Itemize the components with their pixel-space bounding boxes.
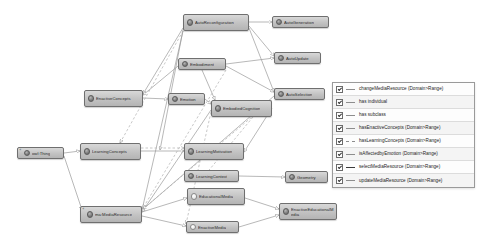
graph-node-embodiedcognition[interactable]: EmbodiedCognition — [211, 100, 272, 117]
graph-node-geometry[interactable]: Geometry — [285, 171, 328, 183]
graph-node-enactiveeducationalmedia[interactable]: EnactiveEducationalMedia — [279, 203, 337, 220]
legend-row[interactable]: isAffectedbyEmotion (Domain>Range) — [333, 148, 474, 161]
hollow-circle-icon — [190, 224, 196, 230]
filled-circle-icon — [278, 55, 284, 61]
filled-circle-icon — [188, 148, 194, 154]
legend-checkbox[interactable] — [336, 164, 343, 171]
node-label: AutoUpdate — [286, 56, 309, 61]
graph-node-autoselection[interactable]: AutoSelection — [274, 88, 325, 100]
graph-node-autoreconfiguration[interactable]: AutoReconfiguration — [183, 14, 249, 31]
graph-node-autogeneration[interactable]: AutoGeneration — [272, 16, 329, 28]
legend-line-swatch — [346, 167, 355, 168]
legend-checkbox[interactable] — [336, 125, 343, 132]
legend-checkbox[interactable] — [336, 177, 343, 184]
filled-circle-icon — [283, 208, 289, 214]
filled-circle-icon — [276, 19, 282, 25]
legend-row[interactable]: hasEnactiveConcepts (Domain>Range) — [333, 122, 474, 135]
graph-node-embodiment[interactable]: Embodiment — [178, 58, 226, 70]
legend-line-swatch — [346, 115, 355, 116]
node-label: LearningContext — [196, 174, 227, 179]
legend-line-swatch — [346, 180, 355, 181]
graph-node-owlthing[interactable]: «owl:Thing — [17, 147, 64, 159]
hollow-circle-icon — [191, 193, 197, 199]
legend-line-swatch — [346, 154, 355, 155]
node-label: EmbodiedCognition — [223, 106, 260, 111]
node-marker-icon: « — [20, 149, 22, 152]
legend-label: hasLearningConcepts (Domain>Range) — [359, 138, 441, 144]
node-label: Embodiment — [190, 62, 214, 67]
filled-circle-icon — [172, 96, 178, 102]
legend-line-swatch — [346, 128, 355, 129]
filled-circle-icon — [187, 19, 193, 25]
graph-node-emotion[interactable]: Emotion — [168, 93, 205, 105]
filled-circle-icon — [289, 174, 295, 180]
graph-node-autoupdate[interactable]: AutoUpdate — [274, 52, 321, 64]
graph-node-learningcontext[interactable]: LearningContext — [184, 170, 239, 182]
filled-circle-icon — [215, 105, 221, 111]
legend-label: has individual — [359, 99, 387, 105]
node-label: AutoReconfiguration — [195, 20, 234, 25]
legend-row[interactable]: selectMediaResource (Domain>Range) — [333, 161, 474, 174]
node-label: owl:Thing — [32, 151, 50, 156]
filled-circle-icon — [188, 173, 194, 179]
graph-node-mamediaresource[interactable]: «ma:MediaResource — [80, 206, 142, 223]
legend-line-swatch — [346, 141, 355, 142]
filled-circle-icon — [88, 95, 94, 101]
filled-circle-icon — [84, 148, 90, 154]
legend-label: updateMediaResource (Domain>Range) — [359, 178, 442, 184]
graph-node-enactivemedia[interactable]: EnactiveMedia — [186, 221, 239, 233]
legend-panel[interactable]: changeMediaResource (Domain>Range)has in… — [332, 82, 475, 188]
graph-node-learningconcepts[interactable]: LearningConcepts — [80, 143, 141, 160]
filled-circle-icon — [87, 211, 93, 217]
legend-label: selectMediaResource (Domain>Range) — [359, 164, 440, 170]
node-label: Emotion — [180, 97, 196, 102]
filled-circle-icon — [278, 91, 284, 97]
node-label: AutoGeneration — [284, 20, 314, 25]
node-label: EnactiveMedia — [198, 225, 226, 230]
node-label: EducationalMedia — [199, 194, 233, 199]
legend-label: changeMediaResource (Domain>Range) — [359, 86, 443, 92]
graph-node-educationalmedia[interactable]: EducationalMedia — [187, 188, 245, 205]
filled-circle-icon — [24, 150, 30, 156]
graph-node-learningmotivation[interactable]: LearningMotivation — [184, 143, 244, 160]
legend-row[interactable]: has subclass — [333, 109, 474, 122]
node-label: LearningMotivation — [196, 149, 232, 154]
graph-node-enactiveconcepts[interactable]: EnactiveConcepts — [84, 90, 143, 107]
node-label: AutoSelection — [286, 92, 313, 97]
legend-row[interactable]: has individual — [333, 96, 474, 109]
legend-checkbox[interactable] — [336, 99, 343, 106]
legend-checkbox[interactable] — [336, 86, 343, 93]
legend-label: isAffectedbyEmotion (Domain>Range) — [359, 151, 438, 157]
legend-row[interactable]: hasLearningConcepts (Domain>Range) — [333, 135, 474, 148]
node-label: EnactiveConcepts — [96, 96, 131, 101]
node-label: ma:MediaResource — [95, 212, 132, 217]
legend-line-swatch — [346, 89, 355, 90]
legend-line-swatch — [346, 102, 355, 103]
filled-circle-icon — [182, 61, 188, 67]
legend-label: hasEnactiveConcepts (Domain>Range) — [359, 125, 441, 131]
node-marker-icon: « — [83, 208, 85, 211]
legend-row[interactable]: changeMediaResource (Domain>Range) — [333, 83, 474, 96]
legend-checkbox[interactable] — [336, 112, 343, 119]
legend-row[interactable]: updateMediaResource (Domain>Range) — [333, 174, 474, 187]
legend-label: has subclass — [359, 112, 386, 118]
node-label: LearningConcepts — [92, 149, 127, 154]
legend-checkbox[interactable] — [336, 138, 343, 145]
node-label: Geometry — [297, 175, 316, 180]
legend-checkbox[interactable] — [336, 151, 343, 158]
node-label: EnactiveEducationalMedia — [291, 207, 334, 217]
